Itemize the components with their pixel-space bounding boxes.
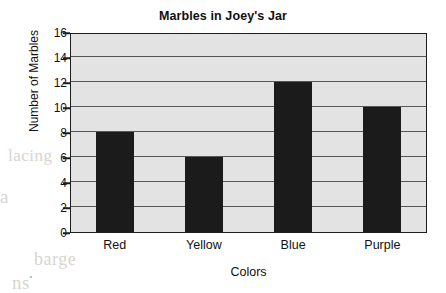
- y-tick-label-16: 16: [7, 27, 67, 39]
- x-tick-label-yellow: Yellow: [159, 238, 248, 252]
- y-tick-label-4: 4: [7, 177, 67, 189]
- y-tick-label-14: 14: [7, 52, 67, 64]
- x-axis-tick-labels: RedYellowBluePurple: [70, 238, 427, 252]
- y-tick-label-8: 8: [7, 127, 67, 139]
- bar-slot-purple: [337, 34, 426, 232]
- y-tick-mark-4: [63, 182, 70, 184]
- bar-purple: [363, 107, 401, 232]
- bar-slot-yellow: [160, 34, 249, 232]
- y-tick-mark-12: [63, 82, 70, 84]
- bar-slot-red: [71, 34, 160, 232]
- bar-slot-blue: [249, 34, 338, 232]
- bar-red: [96, 132, 134, 232]
- y-tick-label-0: 0: [7, 227, 67, 239]
- y-tick-mark-0: [63, 232, 70, 234]
- y-tick-label-2: 2: [7, 202, 67, 214]
- bar-series: [71, 34, 426, 232]
- x-tick-label-red: Red: [70, 238, 159, 252]
- y-tick-label-10: 10: [7, 102, 67, 114]
- x-axis-title: Colors: [70, 265, 427, 279]
- y-tick-label-12: 12: [7, 77, 67, 89]
- bar-blue: [274, 82, 312, 232]
- y-tick-label-6: 6: [7, 152, 67, 164]
- plot-area: [70, 33, 427, 233]
- y-tick-mark-14: [63, 57, 70, 59]
- y-tick-mark-2: [63, 207, 70, 209]
- y-tick-mark-10: [63, 107, 70, 109]
- x-tick-label-blue: Blue: [249, 238, 338, 252]
- bar-yellow: [185, 157, 223, 232]
- x-tick-label-purple: Purple: [338, 238, 427, 252]
- bar-chart-figure: Marbles in Joey's Jar Number of Marbles …: [0, 0, 446, 293]
- y-tick-mark-6: [63, 157, 70, 159]
- y-tick-mark-8: [63, 132, 70, 134]
- y-tick-mark-16: [63, 32, 70, 34]
- chart-title: Marbles in Joey's Jar: [0, 9, 446, 23]
